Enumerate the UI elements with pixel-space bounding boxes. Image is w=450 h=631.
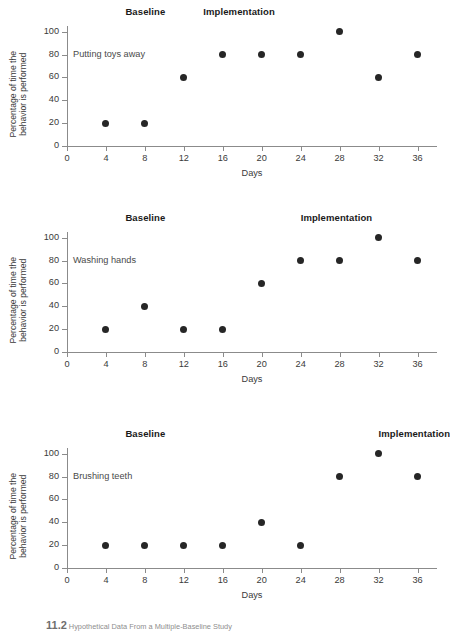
x-tick-mark [379, 568, 380, 573]
y-tick-label: 80 [49, 255, 59, 265]
y-axis-line [67, 26, 68, 146]
x-tick-label: 32 [373, 153, 383, 163]
y-tick-label: 40 [49, 94, 59, 104]
x-tick-label: 0 [64, 153, 69, 163]
x-tick-mark [145, 146, 146, 151]
x-tick-label: 16 [218, 575, 228, 585]
y-tick: 40 [62, 522, 67, 523]
data-point [102, 120, 109, 127]
series-label: Putting toys away [73, 49, 145, 59]
x-tick-label: 20 [257, 153, 267, 163]
y-tick-label: 100 [44, 448, 59, 458]
x-tick-mark [262, 352, 263, 357]
y-tick: 20 [62, 123, 67, 124]
data-point [258, 519, 265, 526]
x-axis-line [67, 568, 437, 569]
x-tick-label: 8 [142, 359, 147, 369]
y-tick: 100 [62, 32, 67, 33]
x-tick-mark [340, 146, 341, 151]
x-tick-mark [340, 352, 341, 357]
data-point [375, 74, 382, 81]
y-tick-label: 60 [49, 493, 59, 503]
data-point [414, 257, 421, 264]
y-tick-mark [62, 522, 67, 523]
data-point [180, 326, 187, 333]
x-tick-mark [184, 568, 185, 573]
y-axis-title: Percentage of time thebehavior is perfor… [8, 235, 28, 365]
y-tick: 20 [62, 545, 67, 546]
x-axis-title: Days [67, 590, 437, 600]
y-tick-label: 40 [49, 300, 59, 310]
x-tick-label: 4 [103, 575, 108, 585]
y-axis-title-line2: behavior is performed [18, 235, 28, 365]
x-tick-mark [340, 568, 341, 573]
y-tick: 100 [62, 454, 67, 455]
x-tick-mark [184, 352, 185, 357]
y-tick-label: 60 [49, 71, 59, 81]
x-tick-mark [106, 568, 107, 573]
y-tick-mark [62, 100, 67, 101]
y-tick-mark [62, 32, 67, 33]
y-tick: 80 [62, 477, 67, 478]
y-axis-line [67, 232, 68, 352]
y-tick: 60 [62, 283, 67, 284]
data-point [414, 473, 421, 480]
data-point [219, 51, 226, 58]
x-tick-label: 24 [296, 575, 306, 585]
y-axis-title: Percentage of time thebehavior is perfor… [8, 29, 28, 159]
data-point [258, 51, 265, 58]
x-tick-label: 0 [64, 575, 69, 585]
data-point [180, 74, 187, 81]
x-tick-label: 28 [335, 359, 345, 369]
data-point [141, 303, 148, 310]
data-point [102, 326, 109, 333]
y-tick-mark [62, 55, 67, 56]
y-tick: 100 [62, 238, 67, 239]
y-axis-title-line1: Percentage of time the [8, 235, 18, 365]
y-tick-mark [62, 77, 67, 78]
y-tick-mark [62, 261, 67, 262]
x-tick-mark [262, 568, 263, 573]
x-tick-mark [301, 568, 302, 573]
plot-area: 02040608010004812162024283236DaysWashing… [67, 232, 437, 352]
x-tick-mark [145, 352, 146, 357]
y-tick-label: 60 [49, 277, 59, 287]
phase-label-implementation: Implementation [379, 428, 450, 439]
data-point [375, 450, 382, 457]
x-tick-label: 20 [257, 575, 267, 585]
x-tick-mark [418, 568, 419, 573]
y-tick: 40 [62, 306, 67, 307]
x-tick-mark [67, 146, 68, 151]
x-tick-mark [418, 146, 419, 151]
y-tick-label: 0 [54, 562, 59, 572]
x-axis-line [67, 352, 437, 353]
x-tick-mark [67, 352, 68, 357]
x-tick-mark [184, 146, 185, 151]
data-point [102, 542, 109, 549]
x-tick-label: 36 [412, 153, 422, 163]
data-point [375, 234, 382, 241]
y-tick-label: 100 [44, 232, 59, 242]
data-point [297, 51, 304, 58]
y-tick-mark [62, 545, 67, 546]
figure-caption-text: Hypothetical Data From a Multiple-Baseli… [69, 622, 232, 631]
x-tick-mark [379, 146, 380, 151]
y-axis-title: Percentage of time thebehavior is perfor… [8, 451, 28, 581]
y-axis-title-line2: behavior is performed [18, 29, 28, 159]
y-tick-label: 100 [44, 26, 59, 36]
y-tick: 80 [62, 55, 67, 56]
x-tick-label: 4 [103, 359, 108, 369]
data-point [219, 542, 226, 549]
data-point [414, 51, 421, 58]
x-tick-label: 0 [64, 359, 69, 369]
x-tick-label: 36 [412, 575, 422, 585]
x-tick-mark [106, 352, 107, 357]
y-tick-label: 80 [49, 49, 59, 59]
x-axis-title: Days [67, 168, 437, 178]
x-tick-label: 32 [373, 359, 383, 369]
x-tick-label: 32 [373, 575, 383, 585]
phase-label-baseline: Baseline [125, 6, 165, 17]
x-tick-label: 36 [412, 359, 422, 369]
y-tick-mark [62, 329, 67, 330]
